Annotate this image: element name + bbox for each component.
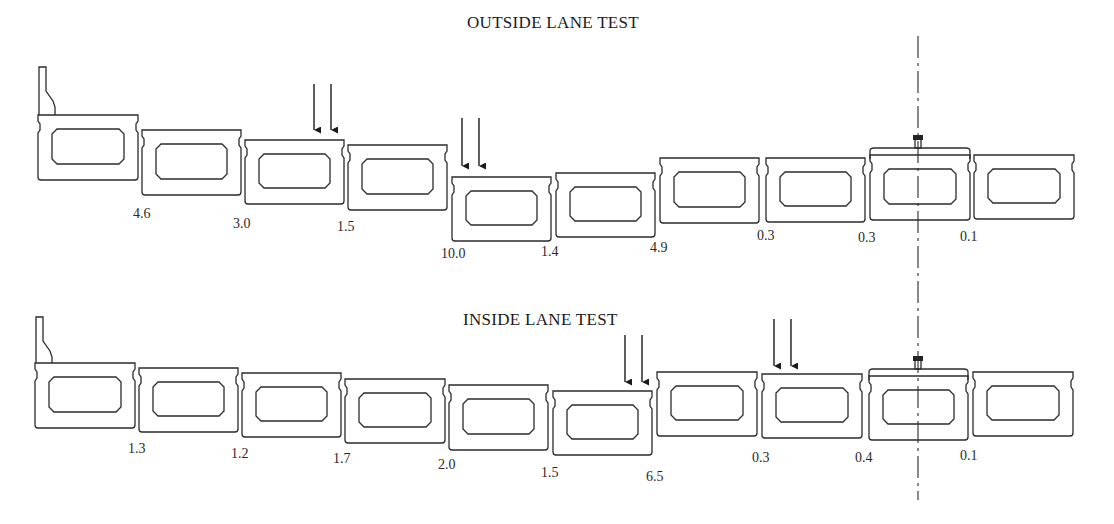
displacement-value: 1.2 [231, 446, 249, 461]
inside-box-beam-1 [35, 363, 135, 428]
box-beam-outline [553, 391, 652, 455]
displacement-value: 0.1 [960, 448, 978, 463]
box-beam-void [776, 388, 848, 422]
inside-box-beam-8 [762, 374, 862, 438]
box-beam-void [671, 386, 743, 420]
box-beam-outline [242, 373, 341, 437]
box-beam-outline [870, 155, 970, 220]
box-beam-void [156, 144, 227, 179]
inside-box-beam-3 [242, 373, 341, 437]
inside-box-beam-2 [139, 368, 238, 432]
outside-box-beam-8 [766, 158, 865, 222]
outside-box-beam-3 [245, 140, 344, 204]
outside-box-beam-2 [142, 130, 241, 195]
box-beam-void [52, 129, 124, 164]
box-beam-outline [660, 158, 759, 223]
inside-lane-section: 1.31.21.72.01.56.50.30.40.1 [35, 317, 1073, 484]
box-beam-void [988, 169, 1060, 203]
inside-box-beam-10 [973, 372, 1073, 436]
inside-box-beam-5 [449, 385, 548, 450]
box-beam-outline [974, 155, 1074, 219]
outside-box-beam-4 [348, 145, 447, 210]
outside-lane-section: 4.63.01.510.01.44.90.30.30.1 [38, 67, 1074, 261]
box-beam-void [466, 191, 537, 225]
displacement-value: 1.5 [337, 219, 355, 234]
box-beam-outline [142, 130, 241, 195]
box-beam-outline [35, 363, 135, 428]
box-beam-void [884, 169, 956, 204]
displacement-value: 0.3 [752, 450, 770, 465]
box-beam-void [463, 399, 534, 434]
displacement-value: 10.0 [441, 246, 466, 261]
displacement-value: 3.0 [233, 216, 251, 231]
box-beam-void [359, 393, 431, 427]
box-beam-outline [762, 374, 862, 438]
bridge-deflection-diagram: 4.63.01.510.01.44.90.30.30.1 1.31.21.72.… [0, 0, 1114, 524]
outside-box-beam-7 [660, 158, 759, 223]
displacement-value: 4.9 [650, 240, 668, 255]
displacement-value: 0.4 [855, 450, 873, 465]
box-beam-outline [973, 372, 1073, 436]
displacement-value: 2.0 [438, 457, 456, 472]
box-beam-void [570, 187, 641, 221]
displacement-value: 1.3 [128, 441, 146, 456]
displacement-value: 4.6 [133, 206, 151, 221]
outside-box-beam-6 [556, 173, 655, 237]
outside-box-beam-9 [870, 135, 970, 220]
box-beam-outline [348, 145, 447, 210]
inside-box-beam-4 [345, 379, 445, 443]
box-beam-outline [38, 115, 138, 180]
box-beam-void [256, 387, 327, 421]
cap-plate [870, 148, 970, 159]
inside-box-beam-7 [657, 372, 757, 436]
box-beam-void [259, 154, 330, 188]
box-beam-outline [345, 379, 445, 443]
displacement-value: 6.5 [646, 469, 664, 484]
box-beam-outline [139, 368, 238, 432]
outside-box-beam-5 [452, 177, 551, 241]
box-beam-void [780, 172, 851, 206]
box-beam-void [153, 382, 224, 416]
box-beam-outline [766, 158, 865, 222]
displacement-value: 1.7 [333, 451, 351, 466]
box-beam-void [987, 386, 1059, 420]
outside-box-beam-10 [974, 155, 1074, 219]
box-beam-outline [556, 173, 655, 237]
box-beam-void [674, 172, 745, 207]
displacement-value: 0.1 [960, 229, 978, 244]
displacement-value: 0.3 [757, 228, 775, 243]
box-beam-outline [657, 372, 757, 436]
parapet-barrier [36, 317, 52, 363]
displacement-value: 1.5 [541, 465, 559, 480]
box-beam-outline [245, 140, 344, 204]
outside-box-beam-1 [38, 115, 138, 180]
box-beam-void [49, 377, 121, 412]
inside-box-beam-6 [553, 391, 652, 455]
displacement-value: 0.3 [858, 230, 876, 245]
parapet-barrier [39, 67, 55, 115]
box-beam-void [567, 405, 638, 439]
box-beam-void [362, 159, 433, 194]
box-beam-outline [449, 385, 548, 450]
box-beam-outline [452, 177, 551, 241]
displacement-value: 1.4 [541, 244, 559, 259]
